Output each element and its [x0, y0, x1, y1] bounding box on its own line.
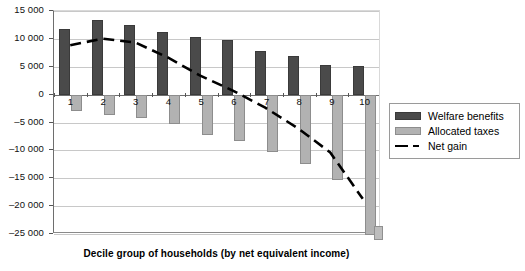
x-axis-tick-label: 10 [357, 97, 373, 107]
legend-label-net-gain: Net gain [428, 140, 467, 152]
x-axis-tick-mark [54, 93, 55, 97]
legend-item-welfare-benefits: Welfare benefits [395, 108, 514, 123]
x-axis-tick-label: 1 [62, 97, 78, 107]
bar-allocated-taxes [365, 95, 376, 235]
y-axis-tick-mark [49, 233, 53, 234]
x-axis-tick-mark [87, 93, 88, 97]
bar-allocated-taxes [332, 95, 343, 181]
bar-welfare-benefits [157, 32, 168, 95]
y-axis-tick-label: –5 000 [0, 117, 44, 127]
bar-welfare-benefits [255, 51, 266, 95]
x-axis-title: Decile group of households (by net equiv… [53, 248, 380, 259]
x-axis-tick-mark [218, 93, 219, 97]
bar-welfare-benefits [222, 40, 233, 95]
legend-item-net-gain: Net gain [395, 138, 514, 153]
gridline--25000 [54, 234, 379, 235]
bar-welfare-benefits [190, 37, 201, 95]
y-axis-tick-label: 10 000 [0, 33, 44, 43]
x-axis-tick-mark [316, 93, 317, 97]
bar-welfare-benefits [92, 20, 103, 95]
legend-label-allocated-taxes: Allocated taxes [428, 125, 499, 137]
x-axis-tick-mark [283, 93, 284, 97]
chart-figure: 15 00010 0005 0000–5 000–10 000–15 000–2… [0, 0, 525, 271]
x-axis-tick-label: 8 [291, 97, 307, 107]
y-axis-tick-label: –20 000 [0, 200, 44, 210]
legend: Welfare benefits Allocated taxes Net gai… [389, 103, 520, 159]
gridline--20000 [54, 206, 379, 207]
gridline--5000 [54, 123, 379, 124]
x-axis-tick-label: 2 [95, 97, 111, 107]
legend-swatch-welfare-benefits [395, 112, 421, 120]
bar-welfare-benefits [124, 25, 135, 95]
x-axis-tick-label: 6 [226, 97, 242, 107]
x-axis-tick-label: 7 [259, 97, 275, 107]
y-axis-tick-label: –25 000 [0, 228, 44, 238]
x-axis-tick-mark [152, 93, 153, 97]
legend-swatch-allocated-taxes [395, 127, 421, 135]
y-axis-tick-label: 15 000 [0, 5, 44, 15]
x-axis-tick-mark [119, 93, 120, 97]
x-axis-tick-mark [185, 93, 186, 97]
legend-label-welfare-benefits: Welfare benefits [428, 110, 504, 122]
scroll-thumb-artifact [374, 226, 383, 240]
legend-swatch-net-gain [395, 142, 421, 150]
x-axis-tick-label: 3 [128, 97, 144, 107]
gridline-15000 [54, 11, 379, 12]
bar-welfare-benefits [59, 29, 70, 95]
y-axis-tick-label: 5 000 [0, 61, 44, 71]
y-axis-tick-label: –10 000 [0, 144, 44, 154]
gridline--10000 [54, 150, 379, 151]
gridline-10000 [54, 39, 379, 40]
net-gain-line [54, 11, 379, 232]
x-axis-tick-mark [348, 93, 349, 97]
bar-welfare-benefits [320, 65, 331, 95]
x-axis-tick-label: 9 [324, 97, 340, 107]
bar-welfare-benefits [353, 66, 364, 95]
gridline--15000 [54, 178, 379, 179]
y-axis-tick-label: –15 000 [0, 172, 44, 182]
y-axis-tick-label: 0 [0, 89, 44, 99]
plot-area: 12345678910 [53, 10, 380, 233]
x-axis-tick-label: 4 [160, 97, 176, 107]
x-axis-tick-label: 5 [193, 97, 209, 107]
x-axis-tick-mark [250, 93, 251, 97]
bar-welfare-benefits [288, 56, 299, 94]
legend-item-allocated-taxes: Allocated taxes [395, 123, 514, 138]
